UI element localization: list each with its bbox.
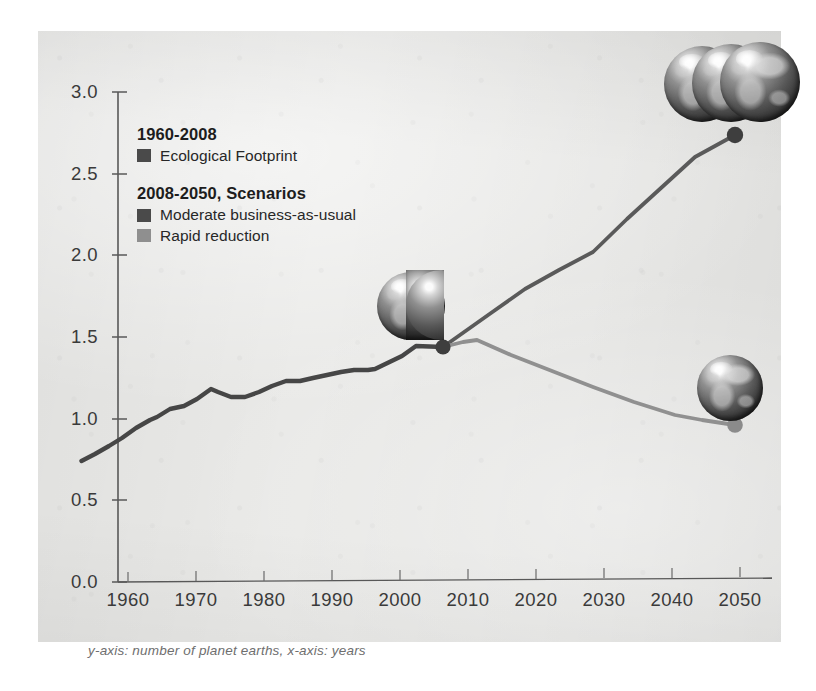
globe-cluster-one-earth: [697, 355, 775, 429]
y-axis-ticks: [112, 92, 127, 582]
x-axis-tick-label: 2010: [439, 589, 497, 611]
legend-item-ecological-footprint: Ecological Footprint: [137, 146, 437, 165]
legend-swatch-icon: [137, 149, 151, 162]
x-axis-tick-label: 1970: [167, 589, 225, 611]
legend-label-moderate-business-as-usual: Moderate business-as-usual: [160, 205, 356, 224]
y-axis-tick-label: 0.0: [46, 571, 98, 593]
x-axis-tick-label: 2020: [507, 589, 565, 611]
globe-cluster-three-earths: [664, 42, 794, 134]
x-axis-tick-label: 2050: [711, 589, 769, 611]
x-axis-tick-label: 2030: [575, 589, 633, 611]
y-axis-tick-label: 1.5: [46, 326, 98, 348]
legend-label-ecological-footprint: Ecological Footprint: [160, 146, 297, 165]
series-line-ecological-footprint: [82, 346, 444, 461]
x-axis-tick-label: 2000: [371, 589, 429, 611]
legend-swatch-icon: [137, 229, 151, 242]
earth-globe-icon: [697, 355, 763, 421]
legend-label-rapid-reduction: Rapid reduction: [160, 226, 269, 245]
series-line-rapid-reduction: [443, 340, 735, 425]
series-line-moderate-business-as-usual: [443, 135, 735, 347]
figure-caption: y-axis: number of planet earths, x-axis:…: [88, 643, 366, 658]
x-axis-tick-label: 1980: [235, 589, 293, 611]
y-axis-tick-label: 2.0: [46, 244, 98, 266]
y-axis-tick-label: 3.0: [46, 81, 98, 103]
earth-globe-icon: [720, 42, 800, 122]
legend-item-moderate-business-as-usual: Moderate business-as-usual: [137, 205, 437, 224]
legend-block-historical: 1960-2008 Ecological Footprint: [137, 125, 437, 165]
legend-block-scenarios: 2008-2050, Scenarios Moderate business-a…: [137, 184, 437, 245]
x-axis-tick-label: 1990: [303, 589, 361, 611]
x-axis-tick-label: 2040: [643, 589, 701, 611]
y-axis-tick-label: 1.0: [46, 408, 98, 430]
globe-cluster-one-and-a-half-earths: [377, 270, 473, 350]
y-axis-tick-label: 0.5: [46, 489, 98, 511]
legend-swatch-icon: [137, 209, 151, 222]
legend-heading-historical: 1960-2008: [137, 125, 437, 144]
chart-legend: 1960-2008 Ecological Footprint 2008-2050…: [137, 125, 437, 246]
legend-heading-scenarios: 2008-2050, Scenarios: [137, 184, 437, 203]
x-axis-tick-label: 1960: [99, 589, 157, 611]
figure-ecological-footprint-chart: 1960-2008 Ecological Footprint 2008-2050…: [0, 0, 816, 691]
earth-globe-icon-partial: [406, 270, 444, 340]
y-axis-tick-label: 2.5: [46, 163, 98, 185]
legend-item-rapid-reduction: Rapid reduction: [137, 226, 437, 245]
